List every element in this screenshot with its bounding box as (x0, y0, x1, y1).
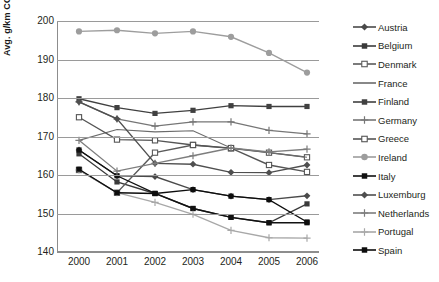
gridline-150 (57, 214, 319, 215)
legend-item-luxemburg[interactable]: Luxemburg (352, 185, 438, 204)
data-point (114, 190, 119, 195)
data-point (304, 162, 311, 169)
data-point (304, 219, 309, 224)
data-point (190, 108, 195, 113)
data-point (76, 147, 81, 152)
data-point (190, 161, 197, 168)
data-point (228, 194, 233, 199)
legend-item-label: Portugal (377, 226, 413, 237)
data-point (304, 69, 310, 75)
legend-marker-icon (352, 114, 377, 126)
data-point (304, 192, 311, 199)
legend-marker-icon (352, 170, 377, 182)
series-line (79, 30, 307, 72)
legend-item-austria[interactable]: Austria (352, 18, 438, 37)
gridline-170 (57, 137, 319, 138)
data-point (114, 105, 119, 110)
legend-item-netherlands[interactable]: Netherlands (352, 204, 438, 223)
y-tick-200: 200 (20, 16, 54, 26)
legend-item-label: France (377, 78, 408, 89)
legend-item-label: Germany (377, 115, 417, 126)
legend-item-germany[interactable]: Germany (352, 111, 438, 130)
legend-item-spain[interactable]: Spain (352, 241, 438, 260)
x-tick-2002: 2002 (144, 256, 166, 267)
legend-item-label: Luxemburg (377, 189, 426, 200)
x-axis-tick-labels: 2000200120022003200420052006 (57, 256, 319, 276)
data-point (114, 27, 120, 33)
legend-marker-icon (352, 40, 377, 52)
y-axis-title: Avg. g/km CO2, new cars (2, 0, 12, 56)
series-line (79, 170, 307, 238)
legend-marker-icon (352, 77, 377, 89)
gridline-190 (57, 60, 319, 61)
data-point (114, 137, 119, 142)
legend-item-belgium[interactable]: Belgium (352, 37, 438, 56)
data-point (151, 199, 158, 206)
legend-marker-icon (352, 151, 377, 163)
data-point (152, 30, 158, 36)
y-tick-160: 160 (20, 170, 54, 180)
gridline-180 (57, 98, 319, 99)
legend-item-denmark[interactable]: Denmark (352, 55, 438, 74)
data-point (266, 104, 271, 109)
series-ireland (76, 27, 310, 76)
x-tick-2003: 2003 (182, 256, 204, 267)
line-chart: Avg. g/km CO2, new cars 1401501601701801… (0, 0, 439, 282)
legend-item-label: Denmark (377, 59, 417, 70)
data-point (152, 138, 157, 143)
data-point (152, 150, 157, 155)
y-tick-150: 150 (20, 209, 54, 219)
data-point (114, 179, 119, 184)
legend-item-label: Netherlands (377, 208, 429, 219)
legend-item-label: Belgium (377, 40, 412, 51)
y-tick-170: 170 (20, 132, 54, 142)
legend-item-portugal[interactable]: Portugal (352, 223, 438, 242)
data-point (151, 123, 158, 130)
series-finland (76, 96, 309, 116)
legend-item-finland[interactable]: Finland (352, 92, 438, 111)
legend-item-label: Spain (377, 245, 402, 256)
legend-marker-icon (352, 58, 377, 70)
legend-item-label: Greece (377, 133, 409, 144)
data-point (227, 227, 234, 234)
data-point (189, 152, 196, 159)
data-point (265, 127, 272, 134)
x-tick-2005: 2005 (258, 256, 280, 267)
data-point (190, 187, 195, 192)
legend-item-italy[interactable]: Italy (352, 167, 438, 186)
legend-marker-icon (352, 96, 377, 108)
x-tick-2006: 2006 (296, 256, 318, 267)
legend-item-france[interactable]: France (352, 74, 438, 93)
y-tick-180: 180 (20, 93, 54, 103)
data-point (304, 201, 309, 206)
legend-marker-icon (352, 207, 377, 219)
data-point (190, 142, 195, 147)
legend-item-label: Ireland (377, 152, 407, 163)
gridline-140 (57, 252, 319, 253)
data-point (265, 234, 272, 241)
data-point (76, 28, 82, 34)
data-point (266, 50, 272, 56)
legend-item-label: Austria (377, 22, 408, 33)
data-point (190, 28, 196, 34)
data-point (228, 103, 233, 108)
data-point (190, 206, 195, 211)
data-point (304, 104, 309, 109)
y-axis-tick-labels: 140150160170180190200 (14, 0, 54, 282)
legend-item-ireland[interactable]: Ireland (352, 148, 438, 167)
x-tick-2004: 2004 (220, 256, 242, 267)
data-point (227, 118, 234, 125)
data-point (266, 220, 271, 225)
legend-marker-icon (352, 244, 377, 256)
legend-item-greece[interactable]: Greece (352, 130, 438, 149)
y-tick-190: 190 (20, 55, 54, 65)
data-point (189, 118, 196, 125)
legend-marker-icon (352, 133, 377, 145)
gridline-160 (57, 175, 319, 176)
data-point (152, 191, 157, 196)
legend-marker-icon (352, 226, 377, 238)
data-point (303, 146, 310, 153)
data-point (266, 197, 271, 202)
y-tick-140: 140 (20, 247, 54, 257)
data-point (152, 111, 157, 116)
